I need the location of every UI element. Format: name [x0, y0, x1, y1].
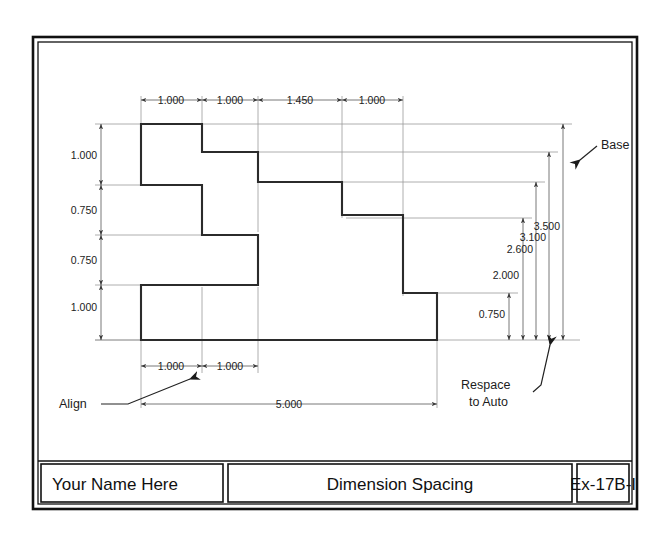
dimension-text-right-2: 2.000: [493, 269, 519, 281]
annotation-respace: Respace to Auto: [461, 345, 550, 409]
leader-line-respace: [533, 345, 550, 392]
dimension-stack-right: 0.750 2.000 2.600 3.100 3.500: [479, 124, 563, 340]
dimension-text-top-1: 1.000: [158, 94, 184, 106]
title-block-name-text: Your Name Here: [52, 475, 178, 494]
dimension-text-right-4: 3.100: [520, 231, 546, 243]
dimension-text-right-5: 3.500: [534, 220, 560, 232]
dimension-text-top-4: 1.000: [359, 94, 385, 106]
dimension-text-bottom-1: 1.000: [158, 360, 184, 372]
dimension-text-top-3: 1.450: [287, 94, 313, 106]
annotation-respace-text-line2: to Auto: [469, 395, 508, 409]
dimension-text-left-3: 0.750: [71, 254, 97, 266]
dimension-text-right-1: 0.750: [479, 308, 505, 320]
title-block-title-text: Dimension Spacing: [327, 475, 473, 494]
annotation-base: Base: [580, 138, 630, 160]
technical-drawing-canvas: Your Name Here Dimension Spacing Ex-17B-…: [0, 0, 671, 538]
dimension-text-left-1: 1.000: [71, 149, 97, 161]
annotation-align-text: Align: [59, 397, 87, 411]
dimension-chain-bottom: 1.000 1.000 5.000: [141, 360, 437, 410]
dimension-chain-top: 1.000 1.000 1.450 1.000: [141, 94, 403, 106]
dimension-text-bottom-2: 1.000: [217, 360, 243, 372]
sheet-border-outer: [33, 37, 637, 509]
drawing-sheet: Your Name Here Dimension Spacing Ex-17B-…: [0, 0, 671, 538]
leader-line-align: [101, 379, 190, 404]
dimension-text-right-3: 2.600: [507, 243, 533, 255]
dimension-text-bottom-overall: 5.000: [276, 398, 302, 410]
sheet-border-inner: [38, 42, 632, 504]
dimension-text-top-2: 1.000: [217, 94, 243, 106]
dimension-chain-left: 1.000 0.750 0.750 1.000: [71, 124, 101, 340]
leader-line-base: [580, 146, 597, 160]
part-outline: [141, 124, 437, 340]
annotation-base-text: Base: [601, 138, 630, 152]
dimension-text-left-2: 0.750: [71, 204, 97, 216]
annotation-align: Align: [59, 379, 190, 411]
annotation-respace-text-line1: Respace: [461, 378, 510, 392]
dimension-text-left-4: 1.000: [71, 301, 97, 313]
title-block-number-text: Ex-17B-I: [570, 475, 636, 494]
